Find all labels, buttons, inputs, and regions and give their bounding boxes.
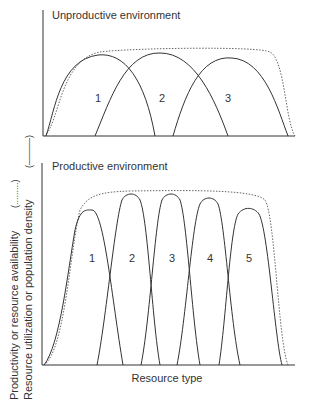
bottom-species-4-label: 4	[207, 252, 213, 264]
bottom-species-2-curve	[97, 194, 160, 365]
niche-partitioning-diagram: Unproductive environment 1 2 3 Productiv…	[0, 0, 310, 402]
x-axis-label: Resource type	[132, 372, 203, 384]
top-species-2-label: 2	[159, 92, 165, 104]
bottom-species-5-curve	[219, 208, 282, 365]
bottom-species-4-curve	[177, 198, 240, 365]
bottom-species-2-label: 2	[129, 252, 135, 264]
bottom-species-5-label: 5	[246, 252, 252, 264]
bottom-species-3-label: 3	[169, 252, 175, 264]
top-panel: Unproductive environment 1 2 3	[43, 9, 295, 136]
bottom-panel: Productive environment 1 2 3 4 5	[42, 160, 295, 365]
top-species-3-label: 3	[225, 92, 231, 104]
bottom-productivity-curve	[44, 191, 288, 365]
top-species-1-label: 1	[95, 92, 101, 104]
y-axis-label-line2: Resource utilization or population densi…	[22, 199, 34, 400]
top-productivity-curve	[45, 48, 295, 136]
y-axis-legend-dotted: (.........)	[10, 179, 20, 208]
bottom-species-1-curve	[44, 210, 123, 365]
bottom-species-3-curve	[141, 194, 200, 365]
bottom-panel-title: Productive environment	[52, 160, 168, 172]
y-axis-label-line1-group: Productivity or resource availability (.…	[8, 179, 20, 400]
bottom-species-1-label: 1	[89, 252, 95, 264]
y-axis-label-line2-group: Resource utilization or population densi…	[22, 135, 34, 400]
y-axis-label-line1: Productivity or resource availability	[8, 230, 20, 400]
top-panel-title: Unproductive environment	[52, 9, 180, 21]
y-axis-legend-solid: (———)	[24, 135, 34, 168]
